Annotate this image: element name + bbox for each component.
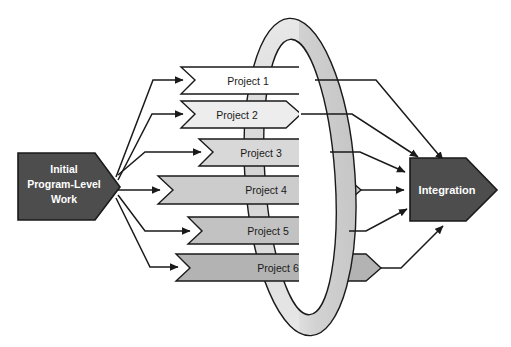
diagram-canvas: Project 6 Project 5 Project 4 Project 3 … bbox=[0, 0, 511, 347]
project-label-1: Project 1 bbox=[227, 75, 269, 87]
connector-project-5-to-integration bbox=[349, 209, 407, 231]
integration-label: Integration bbox=[419, 184, 476, 196]
source-label-line-3: Work bbox=[51, 193, 77, 205]
source-label-line-2: Program-Level bbox=[27, 178, 101, 190]
integration-arrow[interactable]: Integration bbox=[410, 158, 497, 221]
project-label-4: Project 4 bbox=[245, 184, 287, 196]
project-label-6: Project 6 bbox=[257, 262, 299, 274]
program-integration-diagram: Project 6 Project 5 Project 4 Project 3 … bbox=[0, 0, 511, 347]
source-label-line-1: Initial bbox=[50, 163, 78, 175]
project-label-2: Project 2 bbox=[216, 109, 258, 121]
initial-program-level-work-arrow[interactable]: Initial Program-Level Work bbox=[18, 153, 120, 220]
connector-source-to-project-6 bbox=[116, 198, 178, 267]
project-bar-1[interactable]: Project 1 bbox=[181, 67, 315, 94]
connector-project-6-to-integration bbox=[381, 226, 443, 268]
connector-source-to-project-1 bbox=[116, 80, 183, 177]
project-bar-2[interactable]: Project 2 bbox=[181, 101, 301, 128]
project-label-5: Project 5 bbox=[247, 225, 289, 237]
project-label-3: Project 3 bbox=[240, 147, 282, 159]
